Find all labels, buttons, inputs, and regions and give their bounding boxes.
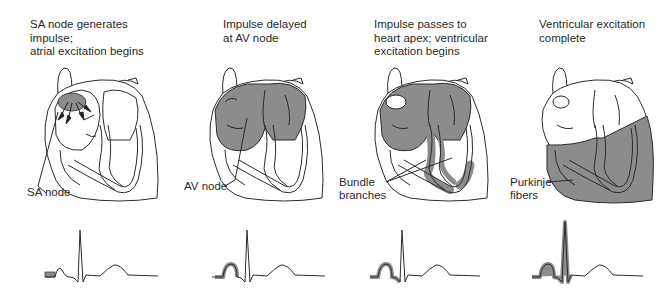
panel-bundle-branches: Impulse passes to heart apex; ventricula…	[330, 0, 495, 293]
ecg-trace	[330, 220, 495, 290]
heart-diagram	[165, 0, 330, 200]
ecg-trace	[0, 220, 165, 290]
panel-purkinje-fibers: Ventricular excitation complete Purkinje…	[495, 0, 664, 293]
sa-node-highlight	[58, 93, 86, 111]
heart-diagram	[495, 0, 664, 200]
heart-diagram	[0, 0, 165, 200]
panel-sa-node: SA node generates impulse; atrial excita…	[0, 0, 165, 293]
label-av-node: AV node	[184, 180, 227, 193]
panel-av-node: Impulse delayed at AV node AV node	[165, 0, 330, 293]
ecg-trace	[165, 220, 330, 290]
label-purkinje-fibers: Purkinje fibers	[510, 176, 552, 202]
heart-diagram	[330, 0, 495, 200]
ecg-trace	[495, 220, 664, 290]
label-sa-node: SA node	[27, 186, 70, 199]
label-bundle-branches: Bundle branches	[339, 176, 386, 202]
